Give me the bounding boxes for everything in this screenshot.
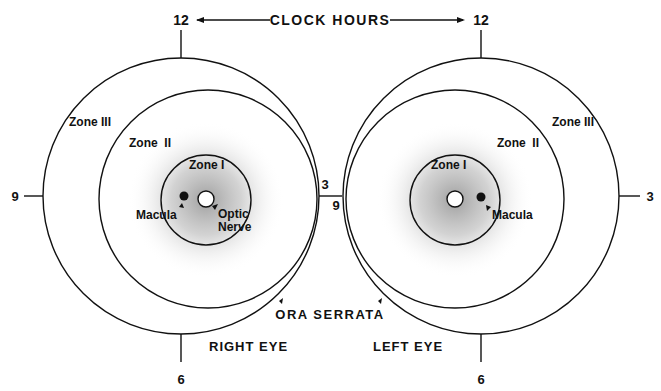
clock-hours-header: 12 12 CLOCK HOURS [173,12,489,28]
optic-label-line2: Nerve [218,220,252,234]
clock-hours-title: CLOCK HOURS [270,12,391,28]
left-macula-dot [477,193,486,202]
ora-pointer-right-icon [279,298,283,304]
right-zone1-label: Zone I [189,158,224,172]
right-optic-nerve [198,191,214,207]
optic-label-line1: Optic [218,207,249,221]
right-3-label: 3 [321,177,328,192]
right-eye-label: RIGHT EYE [209,339,288,354]
left-eye-12-label: 12 [473,12,489,28]
right-zone2-label: Zone II [129,136,171,150]
left-optic-nerve [447,191,463,207]
left-zone1-label: Zone I [431,158,466,172]
left-zone2-label: Zone II [497,136,539,150]
right-eye: 9 3 6 Zone III Zone II Zone I Macula Opt… [11,30,342,387]
right-macula-label: Macula [136,208,177,222]
left-3-label: 3 [646,189,653,204]
left-6-label: 6 [477,372,484,387]
arrow-right-head-icon [457,17,465,23]
ora-pointer-left-icon [378,298,382,304]
left-eye: 3 9 6 Zone III Zone II Zone I Macula LEF… [332,30,653,387]
left-eye-label: LEFT EYE [373,339,443,354]
right-macula-dot [180,192,189,201]
right-zone3-label: Zone III [69,115,111,129]
left-9-label: 9 [332,198,339,213]
ora-serrata-label: ORA SERRATA [275,307,384,322]
retina-zone-diagram: 12 12 CLOCK HOURS 9 3 6 Zone III Zone II… [0,0,661,391]
left-macula-label: Macula [492,208,533,222]
arrow-left-head-icon [196,17,204,23]
right-eye-12-label: 12 [173,12,189,28]
left-zone3-label: Zone III [552,115,594,129]
right-6-label: 6 [177,372,184,387]
right-9-label: 9 [11,189,18,204]
